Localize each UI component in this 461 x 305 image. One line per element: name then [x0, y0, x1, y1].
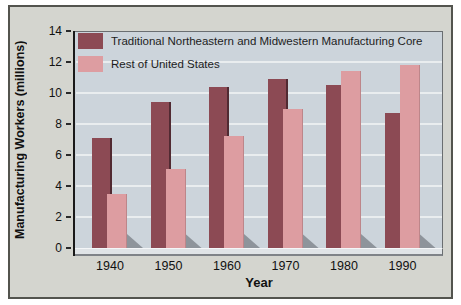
y-axis-tick: [66, 123, 71, 125]
legend: Traditional Northeastern and Midwestern …: [78, 33, 423, 79]
x-tick-label: 1980: [318, 259, 370, 273]
bar-rest-1990: [400, 65, 420, 248]
figure: 02468101214194019501960197019801990 Manu…: [8, 5, 453, 299]
y-axis-tick: [66, 92, 71, 94]
chart-page: 02468101214194019501960197019801990 Manu…: [0, 0, 461, 305]
x-tick-label: 1990: [377, 259, 429, 273]
legend-item: Rest of United States: [78, 56, 423, 72]
y-axis-tick: [66, 154, 71, 156]
legend-label: Traditional Northeastern and Midwestern …: [111, 35, 423, 47]
legend-label: Rest of United States: [111, 58, 220, 70]
x-tick-label: 1970: [260, 259, 312, 273]
y-axis-tick: [66, 30, 71, 32]
bar-rest-1960: [224, 136, 244, 248]
y-axis-title: Manufacturing Workers (millions): [13, 31, 33, 248]
x-tick-label: 1940: [84, 259, 136, 273]
bar-rest-1940: [107, 194, 127, 248]
bar-rest-1950: [166, 169, 186, 248]
legend-swatch-rest: [78, 56, 103, 72]
y-axis-tick: [66, 61, 71, 63]
x-axis-title: Year: [75, 275, 443, 290]
y-axis-tick: [66, 216, 71, 218]
y-axis-tick: [66, 247, 71, 249]
x-tick-label: 1950: [143, 259, 195, 273]
y-axis-tick: [66, 185, 71, 187]
bar-rest-1980: [341, 71, 361, 248]
bar-rest-1970: [283, 109, 303, 249]
legend-item: Traditional Northeastern and Midwestern …: [78, 33, 423, 49]
legend-swatch-core: [78, 33, 103, 49]
x-tick-label: 1960: [201, 259, 253, 273]
